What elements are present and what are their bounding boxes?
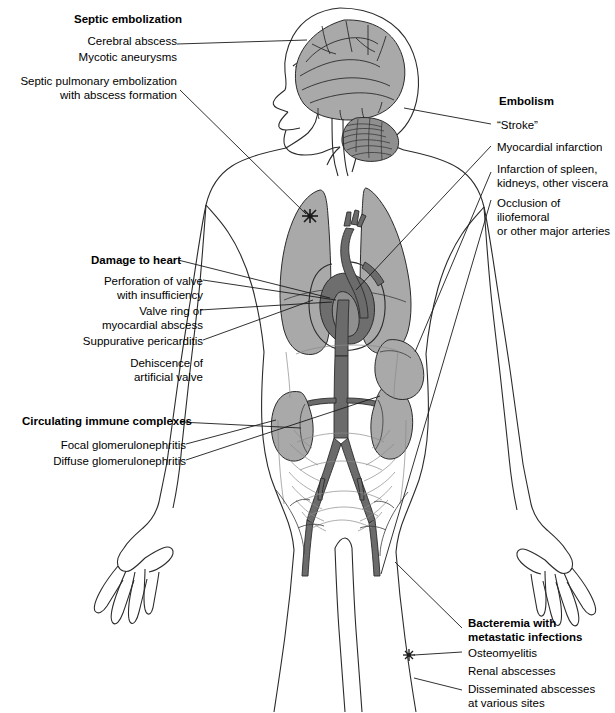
label-diffuse-glomerulonephritis: Diffuse glomerulonephritis	[24, 454, 186, 468]
label-stroke: “Stroke”	[497, 118, 612, 132]
label-focal-glomerulonephritis: Focal glomerulonephritis	[24, 438, 186, 452]
label-osteomyelitis: Osteomyelitis	[468, 646, 615, 660]
group-heading-embolism: Embolism	[499, 94, 554, 108]
abdominal-vessels	[302, 356, 380, 576]
endocarditis-complications-diagram: .ol { fill:none; stroke:#2b2b2b; stroke-…	[0, 0, 615, 713]
label-infarction-of-spleen: Infarction of spleen, kidneys, other vis…	[497, 162, 615, 190]
label-mycotic-aneurysms: Mycotic aneurysms	[20, 50, 177, 64]
leader-lines	[177, 40, 491, 690]
label-septic-pulmonary-embolization: Septic pulmonary embolization with absce…	[12, 74, 177, 102]
osteomyelitis-starburst	[403, 649, 415, 661]
pulmonary-abscess-starburst	[302, 209, 318, 223]
label-cerebral-abscess: Cerebral abscess	[20, 34, 177, 48]
group-heading-septic-embolization: Septic embolization	[74, 12, 182, 26]
head-profile	[273, 8, 418, 176]
label-perforation-of-valve: Perforation of valve with insufficiency	[36, 274, 203, 302]
label-occlusion-of-iliofemoral: Occlusion of iliofemoral or other major …	[497, 196, 615, 238]
label-valve-ring-abscess: Valve ring or myocardial abscess	[36, 304, 203, 332]
group-heading-circulating-immune-complexes: Circulating immune complexes	[22, 414, 192, 428]
group-heading-bacteremia: Bacteremia with metastatic infections	[468, 616, 615, 644]
label-disseminated-abscesses: Disseminated abscesses at various sites	[468, 682, 615, 710]
label-suppurative-pericarditis: Suppurative pericarditis	[36, 334, 203, 348]
label-myocardial-infarction: Myocardial infarction	[497, 140, 615, 154]
label-renal-abscesses: Renal abscesses	[468, 664, 615, 678]
group-heading-damage-to-heart: Damage to heart	[91, 253, 181, 267]
label-dehiscence-of-artificial-valve: Dehiscence of artificial valve	[36, 356, 203, 384]
